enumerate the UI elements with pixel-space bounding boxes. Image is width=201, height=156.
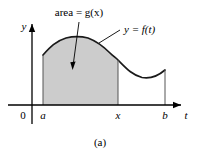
tick-label-b: b xyxy=(162,109,168,121)
y-axis-label: y xyxy=(21,20,27,32)
figure-caption: (a) xyxy=(94,136,107,149)
y-axis-arrowhead xyxy=(29,24,35,32)
tick-label-a: a xyxy=(40,109,46,121)
tick-label-x: x xyxy=(115,109,121,121)
function-label-leader-line xyxy=(99,30,120,43)
shaded-area-region xyxy=(43,37,118,106)
function-annotation-label: y = f(t) xyxy=(123,23,156,36)
t-axis-arrowhead xyxy=(173,102,181,108)
area-annotation-label: area = g(x) xyxy=(55,6,104,19)
t-axis-label: t xyxy=(184,109,188,121)
figure-container: area = g(x) y = f(t) y t 0 a x b (a) xyxy=(0,0,201,156)
origin-label: 0 xyxy=(20,109,26,121)
integral-area-diagram: area = g(x) y = f(t) y t 0 a x b (a) xyxy=(0,0,201,156)
